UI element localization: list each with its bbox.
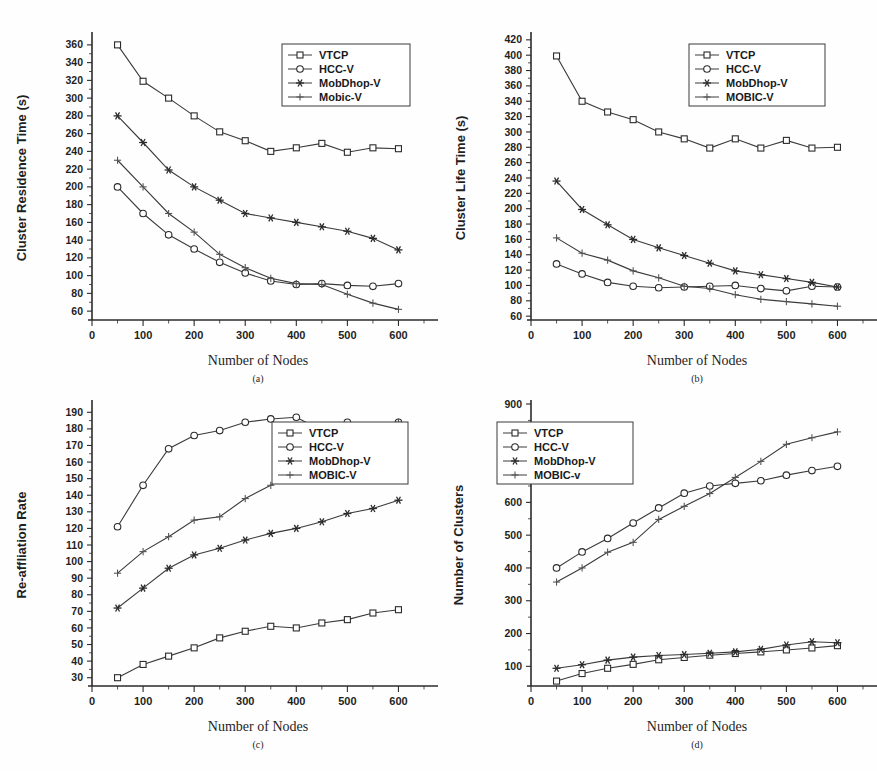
marker-circle xyxy=(758,477,765,484)
legend-label-MobDhop-V: MobDhop-V xyxy=(319,77,381,89)
chart-a: 6080100120140160180200220240260280300320… xyxy=(0,0,438,385)
y-tick-label: 150 xyxy=(65,472,83,484)
marker-star xyxy=(757,271,765,278)
y-tick-label: 340 xyxy=(65,56,83,68)
y-tick-label: 120 xyxy=(504,264,522,276)
x-tick-label: 200 xyxy=(624,329,642,341)
series-MobDhop-V xyxy=(114,112,403,253)
legend-label-MOBIC-V: MOBIC-V xyxy=(726,91,774,103)
marker-circle xyxy=(370,283,377,290)
marker-star xyxy=(706,260,714,267)
x-tick-label: 200 xyxy=(185,329,203,341)
marker-square xyxy=(554,53,560,59)
marker-plus xyxy=(732,291,739,298)
marker-circle xyxy=(553,565,560,572)
marker-circle xyxy=(242,419,249,426)
marker-square xyxy=(191,645,197,651)
marker-circle xyxy=(140,210,147,217)
y-axis-title: Cluster Life Time (s) xyxy=(453,116,468,241)
marker-circle xyxy=(783,472,790,479)
series-line xyxy=(118,160,399,309)
chart-c: 3040506070809010011012013014015016017018… xyxy=(0,386,438,771)
marker-star xyxy=(318,518,326,525)
chart-d: 1002003004005006007008009000100200300400… xyxy=(439,386,877,771)
marker-plus xyxy=(681,503,688,510)
legend-label-MOBIC-V: MOBIC-V xyxy=(309,469,357,481)
series-line xyxy=(557,181,838,287)
legend-label-VTCP: VTCP xyxy=(309,427,338,439)
marker-square xyxy=(166,653,172,659)
marker-plus xyxy=(732,474,739,481)
y-tick-label: 80 xyxy=(71,287,83,299)
marker-circle xyxy=(809,467,816,474)
marker-square xyxy=(704,52,710,58)
marker-plus xyxy=(757,296,764,303)
y-tick-label: 140 xyxy=(504,248,522,260)
legend-label-MobDhop-V: MobDhop-V xyxy=(726,77,788,89)
y-tick-label: 130 xyxy=(65,505,83,517)
y-tick-label: 70 xyxy=(71,605,83,617)
legend-label-HCC-V: HCC-V xyxy=(726,63,761,75)
legend-label-HCC-V: HCC-V xyxy=(319,63,354,75)
y-tick-label: 80 xyxy=(510,294,522,306)
y-tick-label: 240 xyxy=(65,145,83,157)
marker-circle xyxy=(344,282,351,289)
marker-star xyxy=(680,252,688,259)
marker-square xyxy=(630,661,636,667)
x-tick-label: 100 xyxy=(573,695,591,707)
series-HCC-V xyxy=(114,184,402,290)
marker-square xyxy=(287,430,293,436)
marker-circle xyxy=(216,259,223,266)
marker-square xyxy=(395,146,401,152)
y-tick-label: 300 xyxy=(504,126,522,138)
x-tick-label: 200 xyxy=(185,695,203,707)
marker-star xyxy=(578,661,586,668)
x-tick-label: 200 xyxy=(624,695,642,707)
marker-square xyxy=(681,136,687,142)
marker-star xyxy=(655,244,663,251)
figure-sheet: 6080100120140160180200220240260280300320… xyxy=(0,0,877,771)
legend: VTCPHCC-VMobDhop-VMOBIC-V xyxy=(272,422,408,484)
series-VTCP xyxy=(554,643,841,684)
marker-circle xyxy=(267,416,274,423)
marker-square xyxy=(605,665,611,671)
marker-square xyxy=(319,620,325,626)
marker-plus xyxy=(553,234,560,241)
marker-plus xyxy=(834,303,841,310)
series-line xyxy=(557,642,838,669)
marker-plus xyxy=(395,306,402,313)
marker-square xyxy=(758,145,764,151)
y-tick-label: 100 xyxy=(504,279,522,291)
x-tick-label: 300 xyxy=(675,695,693,707)
x-tick-label: 100 xyxy=(134,695,152,707)
marker-star xyxy=(292,219,300,226)
x-tick-label: 400 xyxy=(287,695,305,707)
x-axis-title: Number of Nodes xyxy=(647,353,747,368)
marker-plus xyxy=(216,513,223,520)
y-tick-label: 100 xyxy=(65,269,83,281)
chart-b: 6080100120140160180200220240260280300320… xyxy=(439,0,877,385)
y-tick-label: 180 xyxy=(504,218,522,230)
marker-star xyxy=(394,246,402,253)
y-tick-label: 500 xyxy=(504,529,522,541)
marker-square xyxy=(395,607,401,613)
series-line xyxy=(118,187,399,286)
series-MOBIC-V xyxy=(553,234,841,310)
marker-star xyxy=(318,223,326,230)
x-tick-label: 600 xyxy=(389,329,407,341)
y-tick-label: 420 xyxy=(504,33,522,45)
marker-plus xyxy=(344,291,351,298)
marker-square xyxy=(630,117,636,123)
x-tick-label: 100 xyxy=(134,329,152,341)
y-tick-label: 100 xyxy=(504,660,522,672)
y-tick-label: 60 xyxy=(510,310,522,322)
y-tick-label: 60 xyxy=(71,305,83,317)
y-tick-label: 200 xyxy=(504,627,522,639)
y-tick-label: 280 xyxy=(504,141,522,153)
marker-square xyxy=(344,617,350,623)
legend-label-VTCP: VTCP xyxy=(534,427,563,439)
marker-square xyxy=(554,678,560,684)
marker-circle xyxy=(165,232,172,239)
series-MobDhop-V xyxy=(114,497,403,612)
panel-caption: (c) xyxy=(252,739,263,751)
